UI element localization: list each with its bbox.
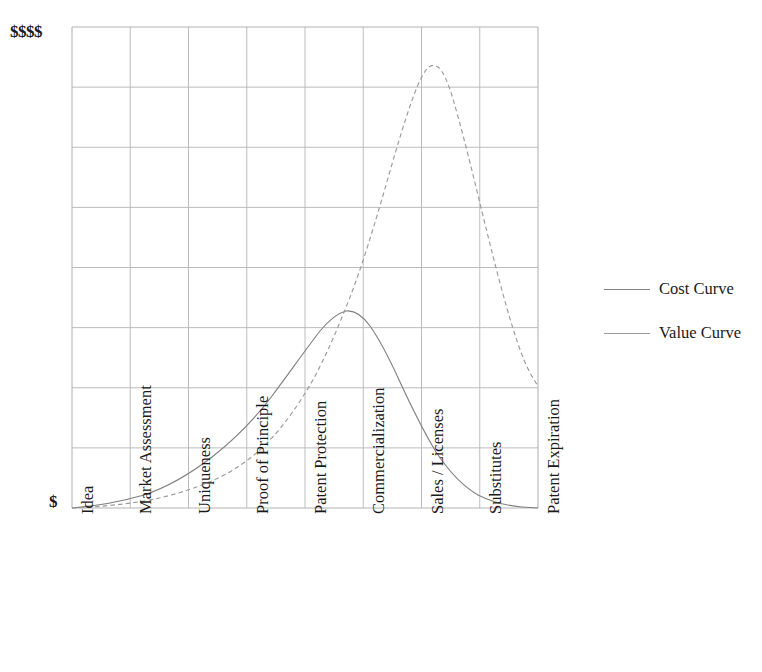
legend-swatch-value-curve — [604, 333, 650, 334]
y-axis-bottom-label: $ — [49, 492, 57, 512]
x-axis-tick-label: Sales / Licenses — [428, 409, 448, 514]
chart-container: $$$$ $ IdeaMarket AssessmentUniquenessPr… — [0, 0, 762, 672]
legend-item-cost-curve: Cost Curve — [604, 279, 734, 299]
x-axis-tick-label: Patent Expiration — [544, 399, 564, 514]
x-axis-tick-label: Commercialization — [369, 388, 389, 514]
x-axis-tick-label: Proof of Principle — [253, 396, 273, 514]
legend-item-value-curve: Value Curve — [604, 323, 741, 343]
x-axis-tick-label: Substitutes — [486, 442, 506, 514]
legend-swatch-cost-curve — [604, 289, 650, 290]
legend-label-value-curve: Value Curve — [659, 323, 741, 343]
x-axis-tick-label: Idea — [78, 486, 98, 514]
legend-label-cost-curve: Cost Curve — [659, 279, 734, 299]
x-axis-tick-label: Uniqueness — [195, 437, 215, 514]
y-axis-top-label: $$$$ — [10, 22, 42, 42]
x-axis-tick-label: Market Assessment — [136, 385, 156, 514]
x-axis-tick-label: Patent Protection — [311, 401, 331, 514]
